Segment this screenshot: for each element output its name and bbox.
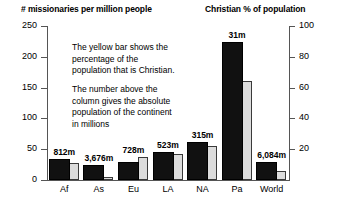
right-axis-tick-label: 20 [299,143,309,153]
left-axis-tick-label: 250 [22,20,37,30]
left-axis-tick-label: 0 [32,174,37,184]
annotation-number-above-column: The number above the column gives the ab… [72,84,172,130]
left-axis-tick-label: 50 [27,143,37,153]
x-axis-category-label: NA [185,184,220,194]
left-axis-tick-label: 150 [22,82,37,92]
bar-christian-percent [276,171,286,180]
right-axis-tick-label: 40 [299,112,309,122]
right-axis-tick [289,57,295,58]
bar-christian-percent [138,157,148,180]
right-axis-tick-label: 100 [299,20,314,30]
left-axis-tick-label: 200 [22,51,37,61]
x-axis-category-label: Eu [116,184,151,194]
bar-christian-percent [69,163,79,180]
chart-figure: # missionaries per million people Christ… [0,0,338,211]
x-axis-category-label: As [82,184,117,194]
bar-population-label: 523m [143,140,194,150]
bar-missionaries [49,159,70,180]
bar-missionaries [118,162,139,180]
x-axis-category-label: LA [151,184,186,194]
annotation-yellow-bar: The yellow bar shows the percentage of t… [72,42,175,77]
left-axis-tick-label: 100 [22,112,37,122]
left-axis-tick [41,180,47,181]
x-axis-category-label: World [254,184,289,194]
right-axis-tick-label: 80 [299,51,309,61]
right-axis-tick-label: 60 [299,82,309,92]
bar-population-label: 31m [212,30,263,40]
bar-christian-percent [103,177,113,180]
bar-missionaries [153,152,174,180]
bar-christian-percent [242,81,252,180]
left-axis-title: # missionaries per million people [21,4,152,14]
right-axis-title: Christian % of population [205,4,305,14]
bar-christian-percent [173,154,183,180]
bar-population-label: 6,084m [246,150,297,160]
bar-missionaries [83,165,104,180]
right-axis-tick [289,26,295,27]
right-axis-tick [289,88,295,89]
x-axis-category-label: Af [47,184,82,194]
x-axis-line [47,180,290,181]
bar-christian-percent [207,146,217,180]
bar-missionaries [222,42,243,180]
x-axis-category-label: Pa [220,184,255,194]
bar-population-label: 315m [177,130,228,140]
bar-missionaries [256,162,277,180]
right-axis-tick [289,118,295,119]
